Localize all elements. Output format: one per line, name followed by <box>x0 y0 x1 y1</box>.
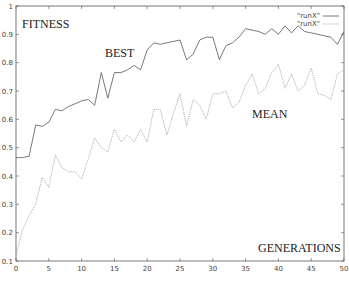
y-tick-label: 0.3 <box>2 201 13 209</box>
plot-frame <box>16 6 344 261</box>
y-tick-label: 0.6 <box>2 116 14 124</box>
y-tick-label: 0.5 <box>2 144 13 152</box>
x-tick-label: 10 <box>77 265 86 273</box>
y-tick-label: 0.8 <box>2 59 13 67</box>
x-tick-label: 0 <box>14 265 18 273</box>
y-tick-label: 0.2 <box>2 229 13 237</box>
x-tick-label: 15 <box>110 265 119 273</box>
x-tick-label: 45 <box>307 265 316 273</box>
y-tick-label: 1 <box>9 3 13 11</box>
x-axis-ticks: 05101520253035404550 <box>14 6 349 273</box>
x-tick-label: 40 <box>274 265 283 273</box>
y-tick-label: 0.4 <box>2 173 14 181</box>
best-label: BEST <box>105 46 135 60</box>
generations-label: GENERATIONS <box>258 241 341 255</box>
y-tick-label: 0.9 <box>2 31 13 39</box>
best-series-line <box>16 26 344 158</box>
mean-series-line <box>16 64 344 255</box>
y-tick-label: 0.1 <box>2 258 13 266</box>
mean-label: MEAN <box>252 107 288 121</box>
fitness-label: FITNESS <box>22 17 69 31</box>
legend-label-best: "runX" <box>297 12 320 20</box>
legend: "runX" "runX" <box>297 12 339 28</box>
x-tick-label: 50 <box>340 265 349 273</box>
x-tick-label: 30 <box>208 265 217 273</box>
x-tick-label: 35 <box>241 265 250 273</box>
x-tick-label: 25 <box>176 265 185 273</box>
fitness-line-chart: 0.10.20.30.40.50.60.70.80.91 05101520253… <box>0 0 349 285</box>
x-tick-label: 20 <box>143 265 152 273</box>
y-axis-ticks: 0.10.20.30.40.50.60.70.80.91 <box>2 3 344 266</box>
y-tick-label: 0.7 <box>2 88 13 96</box>
x-tick-label: 5 <box>47 265 51 273</box>
legend-label-mean: "runX" <box>297 20 320 28</box>
